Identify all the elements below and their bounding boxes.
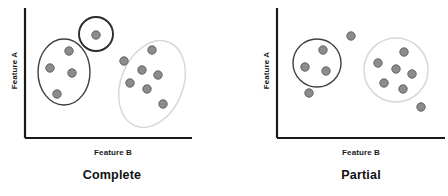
plot-canvas-partial <box>224 0 448 196</box>
x-axis-label: Feature B <box>58 148 168 157</box>
y-axis-label: Feature A <box>262 43 271 99</box>
plot-canvas-complete <box>0 0 224 196</box>
data-point <box>92 31 100 39</box>
data-point <box>68 69 76 77</box>
panel-caption-partial: Partial <box>286 168 436 182</box>
data-point <box>374 59 382 67</box>
cluster-outline-ellipse <box>38 39 90 105</box>
data-point <box>159 100 167 108</box>
data-point <box>319 46 327 54</box>
cluster-comparison-figure: Feature A Feature B Complete <box>0 0 448 196</box>
outlier-left-below <box>305 89 313 97</box>
axes-partial <box>277 8 445 138</box>
cluster-right-light[interactable] <box>106 31 197 138</box>
data-point <box>138 66 146 74</box>
data-point <box>392 65 400 73</box>
data-point <box>126 79 134 87</box>
data-point <box>322 67 330 75</box>
data-point <box>154 71 162 79</box>
data-point <box>53 90 61 98</box>
data-point <box>120 57 128 65</box>
panel-complete: Feature A Feature B Complete <box>0 0 224 196</box>
data-point <box>400 48 408 56</box>
outlier-top-middle <box>347 32 355 40</box>
cluster-left-dark[interactable] <box>38 39 90 105</box>
data-point <box>46 64 54 72</box>
x-axis-label: Feature B <box>306 148 416 157</box>
outlier-right-below <box>417 103 425 111</box>
data-point <box>399 85 407 93</box>
data-point <box>380 79 388 87</box>
data-point <box>301 63 309 71</box>
cluster-top-dark-small[interactable] <box>79 17 113 51</box>
data-point <box>148 46 156 54</box>
data-point <box>65 47 73 55</box>
cluster-right-light[interactable] <box>364 38 428 102</box>
y-axis-label: Feature A <box>10 43 19 99</box>
panel-caption-complete: Complete <box>37 168 187 182</box>
axes-complete <box>25 8 192 138</box>
cluster-outline-circle <box>293 39 341 87</box>
data-point <box>408 70 416 78</box>
panel-partial: Feature A Feature B Partial <box>224 0 448 196</box>
data-point <box>143 85 151 93</box>
cluster-left-dark[interactable] <box>293 39 341 87</box>
